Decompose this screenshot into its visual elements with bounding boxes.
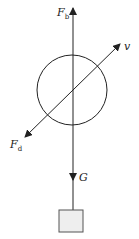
gravity-label: G	[79, 171, 88, 184]
buoyancy-label: Fb	[56, 6, 70, 21]
velocity-label: v	[124, 40, 131, 53]
drag-label: Fd	[9, 138, 23, 153]
drag-arrow	[25, 90, 73, 137]
velocity-arrow	[73, 44, 120, 90]
load-box	[59, 210, 83, 232]
force-diagram: Fb v Fd G	[0, 0, 139, 239]
